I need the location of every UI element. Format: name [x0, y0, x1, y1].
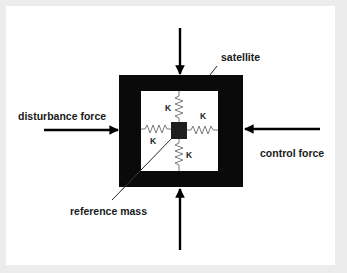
spring-left: [141, 125, 171, 133]
spring-bottom: [175, 139, 183, 171]
spring-right-k-label: K: [200, 112, 206, 121]
disturbance-force-label: disturbance force: [18, 111, 106, 122]
spring-top: [175, 91, 183, 122]
spring-right: [187, 126, 218, 134]
spring-bottom-k-label: K: [186, 151, 192, 160]
spring-top-k-label: K: [165, 104, 171, 113]
reference-mass: [171, 122, 187, 139]
spring-left-k-label: K: [150, 137, 156, 146]
satellite-label: satellite: [221, 52, 260, 63]
satellite-leader-line: [210, 66, 217, 75]
control-force-label: control force: [260, 148, 324, 159]
reference-mass-label: reference mass: [70, 206, 147, 217]
satellite-reference-mass-diagram: [0, 0, 347, 273]
